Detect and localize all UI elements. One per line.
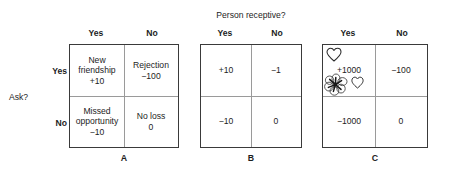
cell-line: Rejection (133, 60, 169, 71)
panel-a-cell-no-yes: Missed opportunity −10 (70, 96, 124, 147)
panel-b-cell-yes-yes: +10 (201, 45, 251, 96)
column-question-label: Person receptive? (216, 10, 285, 21)
panel-a-letter: A (121, 153, 127, 163)
row-question-label: Ask? (9, 92, 28, 103)
panel-b-letter: B (248, 153, 254, 163)
panel-c-column-header-yes: Yes (341, 28, 356, 39)
cell-line: −1 (271, 65, 281, 76)
cell-line: New (88, 55, 105, 66)
cell-line: friendship (78, 65, 115, 76)
panel-b-column-header-no: No (271, 28, 282, 39)
panel-a-cell-yes-no: Rejection −100 (124, 45, 178, 96)
panel-b-cell-no-yes: −10 (201, 96, 251, 147)
cell-line: −100 (141, 71, 160, 82)
panel-b-column-header-yes: Yes (218, 28, 233, 39)
panel-c-matrix: +1000 −100 −1000 0 (322, 44, 428, 148)
cell-line: 0 (274, 116, 279, 127)
panel-a-matrix: New friendship +10 Rejection −100 Missed… (69, 44, 179, 148)
panel-a-column-header-no: No (146, 28, 157, 39)
panel-c-cell-yes-yes: +1000 (323, 45, 375, 96)
panel-c-letter: C (372, 153, 378, 163)
panel-b-matrix: +10 −1 −10 0 (200, 44, 302, 148)
row-header-no: No (56, 118, 67, 129)
cell-line: −10 (219, 116, 234, 127)
payoff-matrix-figure: Person receptive? Ask? Yes No Yes No New… (0, 0, 453, 183)
cell-line: +10 (219, 65, 234, 76)
row-header-yes: Yes (52, 66, 67, 77)
cell-line: opportunity (76, 116, 119, 127)
cell-line: 0 (399, 116, 404, 127)
panel-b-cell-yes-no: −1 (251, 45, 301, 96)
panel-a-cell-no-no: No loss 0 (124, 96, 178, 147)
cell-line: +10 (90, 76, 105, 87)
cell-line: No loss (137, 111, 166, 122)
panel-a-column-header-yes: Yes (89, 28, 104, 39)
panel-a-cell-yes-yes: New friendship +10 (70, 45, 124, 96)
panel-c-cell-no-no: 0 (375, 96, 427, 147)
panel-c-cell-yes-no: −100 (375, 45, 427, 96)
cell-line: 0 (149, 122, 154, 133)
cell-line: −10 (90, 127, 105, 138)
panel-c-column-header-no: No (396, 28, 407, 39)
cell-line: +1000 (337, 65, 361, 76)
cell-line: −100 (391, 65, 410, 76)
panel-c-cell-no-yes: −1000 (323, 96, 375, 147)
cell-line: Missed (83, 106, 110, 117)
panel-b-cell-no-no: 0 (251, 96, 301, 147)
cell-line: −1000 (337, 116, 361, 127)
